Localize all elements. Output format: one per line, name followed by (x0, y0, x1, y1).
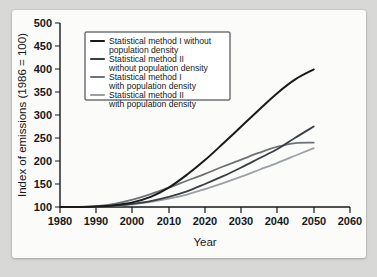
y-tick-label-450: 450 (34, 40, 52, 52)
x-axis-title: Year (193, 236, 216, 248)
x-tick-label-2030: 2030 (229, 215, 253, 227)
x-tick-label-2020: 2020 (193, 215, 217, 227)
y-tick-label-100: 100 (34, 201, 52, 213)
x-tick-label-2000: 2000 (120, 215, 144, 227)
y-tick-marks (55, 23, 60, 207)
x-tick-marks (60, 207, 350, 213)
x-tick-label-2010: 2010 (157, 215, 181, 227)
y-axis-group: 500 450 400 350 300 250 200 150 100 Inde… (16, 17, 60, 213)
y-tick-label-250: 250 (34, 132, 52, 144)
legend-label-3-line2: with population density (108, 99, 197, 109)
series-line-3 (60, 148, 314, 207)
y-tick-label-350: 350 (34, 86, 52, 98)
y-tick-label-400: 400 (34, 63, 52, 75)
x-tick-label-1980: 1980 (48, 215, 72, 227)
x-axis-group: 1980 1990 2000 2010 2020 2030 2040 2050 … (48, 207, 362, 248)
x-tick-label-2040: 2040 (265, 215, 289, 227)
x-tick-label-2050: 2050 (302, 215, 326, 227)
y-axis-title: Index of emissions (1986 = 100) (16, 33, 28, 197)
y-tick-label-500: 500 (34, 17, 52, 29)
y-tick-label-300: 300 (34, 109, 52, 121)
x-tick-label-2060: 2060 (338, 215, 362, 227)
y-tick-label-200: 200 (34, 155, 52, 167)
chart-legend: Statistical method I without population … (85, 32, 230, 109)
emissions-index-line-chart: 500 450 400 350 300 250 200 150 100 Inde… (12, 10, 366, 258)
y-tick-label-150: 150 (34, 178, 52, 190)
x-tick-label-1990: 1990 (84, 215, 108, 227)
figure-card: 500 450 400 350 300 250 200 150 100 Inde… (12, 10, 366, 258)
